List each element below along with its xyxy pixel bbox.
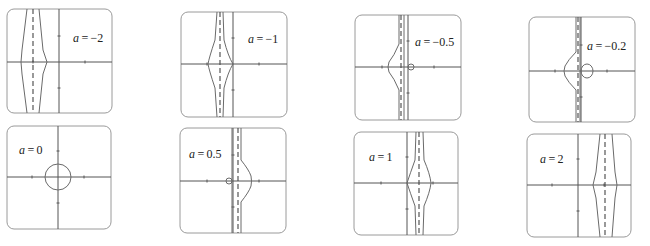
graph-panel: a = 1: [354, 132, 458, 235]
parameter-label: a = 0.5: [189, 147, 222, 161]
graph-panel: a = 2: [527, 134, 631, 237]
parameter-label: a = 1: [369, 150, 393, 164]
graph-panel: a = 0.5: [180, 128, 286, 233]
parameter-label: a = −0.2: [587, 39, 626, 53]
graph-panel: a = −1: [181, 12, 287, 117]
graph-panel: a = −0.2: [529, 17, 635, 122]
parameter-label: a = 0: [19, 143, 43, 157]
parameter-label: a = −1: [248, 32, 278, 46]
graph-frame: [529, 17, 635, 122]
parameter-label: a = −0.5: [415, 35, 454, 49]
parameter-label: a = −2: [73, 31, 103, 45]
graph-panel: a = −2: [7, 9, 112, 113]
parameter-label: a = 2: [540, 152, 564, 166]
graph-panel: a = −0.5: [355, 15, 461, 120]
graph-panel: a = 0: [7, 126, 111, 229]
figure-canvas: a = −2a = −1a = −0.5a = −0.2a = 0a = 0.5…: [0, 0, 650, 246]
